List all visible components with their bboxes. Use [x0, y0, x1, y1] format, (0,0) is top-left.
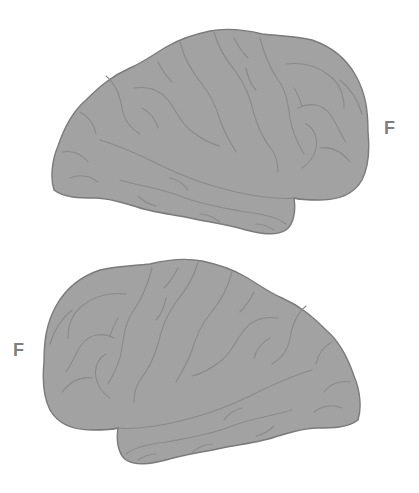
brain-illustration-top: [50, 28, 372, 236]
brain-illustration-bottom: [40, 258, 362, 466]
brain-shape: [52, 30, 369, 234]
frontal-label-top: F: [384, 119, 395, 137]
brain-shape: [43, 260, 360, 464]
frontal-label-bottom: F: [13, 341, 24, 359]
